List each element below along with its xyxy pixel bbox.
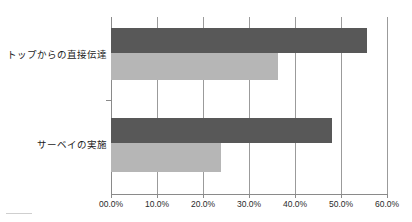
xtick-label-10: 10.0%: [134, 199, 180, 209]
x-axis-labels: 00.0% 10.0% 20.0% 30.0% 40.0% 50.0% 60.0…: [0, 199, 412, 213]
bar-chart: トップからの直接伝達 サーベイの実施 00.0% 10.0% 20.0% 30.…: [0, 0, 412, 222]
scan-artifact-rule: [6, 213, 32, 214]
category-axis: トップからの直接伝達 サーベイの実施: [0, 0, 107, 222]
bar-series-a-category-0: [111, 28, 367, 53]
gridline-60: [387, 17, 388, 194]
bar-series-b-category-0: [111, 53, 278, 80]
plot-area: [111, 17, 387, 194]
category-label-1: サーベイの実施: [1, 139, 107, 150]
xtick-20: [203, 194, 204, 198]
category-separator-tick: [106, 100, 111, 101]
xtick-label-50: 50.0%: [318, 199, 364, 209]
xtick-10: [157, 194, 158, 198]
xtick-40: [295, 194, 296, 198]
bar-series-b-category-1: [111, 143, 221, 172]
xtick-label-0: 00.0%: [88, 199, 134, 209]
category-label-0: トップからの直接伝達: [1, 49, 107, 60]
xtick-label-60: 60.0%: [364, 199, 410, 209]
xtick-0: [111, 194, 112, 198]
xtick-label-20: 20.0%: [180, 199, 226, 209]
xtick-label-30: 30.0%: [226, 199, 272, 209]
bar-series-a-category-1: [111, 118, 332, 143]
xtick-label-40: 40.0%: [272, 199, 318, 209]
xtick-60: [387, 194, 388, 198]
xtick-30: [249, 194, 250, 198]
xtick-50: [341, 194, 342, 198]
